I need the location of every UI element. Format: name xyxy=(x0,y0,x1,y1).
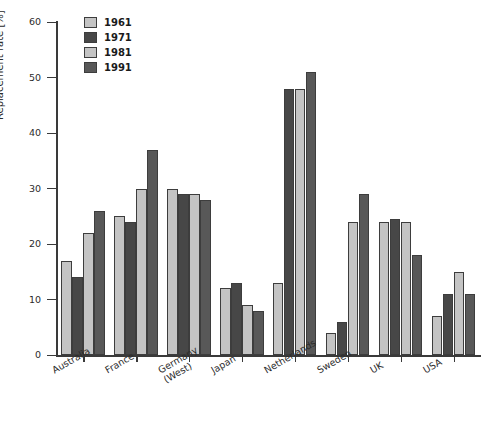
bar xyxy=(200,200,211,355)
bar xyxy=(83,233,94,355)
bar xyxy=(114,216,125,355)
bar xyxy=(61,261,72,355)
y-tick-label-10: 10 xyxy=(1,294,41,305)
bar xyxy=(359,194,370,355)
x-axis-label: Germany (West) xyxy=(156,344,205,385)
legend-item: 1971 xyxy=(84,31,132,45)
bar-group xyxy=(167,22,211,355)
y-tick-20 xyxy=(47,244,56,245)
x-tick xyxy=(401,356,402,362)
y-tick-50 xyxy=(47,77,56,78)
bar-chart: Replacement rate [%] 0102030405060 Austr… xyxy=(0,0,492,423)
x-tick xyxy=(242,356,243,362)
bar xyxy=(242,305,253,355)
bar xyxy=(178,194,189,355)
bar-group xyxy=(326,22,370,355)
bar xyxy=(284,89,295,355)
bar xyxy=(390,219,401,355)
bar xyxy=(273,283,284,355)
bar xyxy=(189,194,200,355)
bar xyxy=(348,222,359,355)
bar xyxy=(401,222,412,355)
legend-item: 1961 xyxy=(84,16,132,30)
x-axis-label: USA xyxy=(421,356,444,375)
y-tick-label-20: 20 xyxy=(1,238,41,249)
bar xyxy=(72,277,83,355)
bar-group xyxy=(379,22,423,355)
y-tick-label-40: 40 xyxy=(1,127,41,138)
y-tick-10 xyxy=(47,299,56,300)
bar xyxy=(454,272,465,355)
bar xyxy=(94,211,105,355)
legend-swatch xyxy=(84,17,97,28)
legend-swatch xyxy=(84,47,97,58)
bar-group xyxy=(432,22,476,355)
x-tick xyxy=(454,356,455,362)
bar xyxy=(432,316,443,355)
bar xyxy=(379,222,390,355)
bar xyxy=(125,222,136,355)
bar xyxy=(220,288,231,355)
legend-swatch xyxy=(84,62,97,73)
y-tick-label-30: 30 xyxy=(1,183,41,194)
legend-label: 1971 xyxy=(104,32,132,43)
bar xyxy=(136,189,147,356)
y-axis-line xyxy=(56,21,58,356)
y-tick-label-0: 0 xyxy=(1,349,41,360)
y-tick-60 xyxy=(47,22,56,23)
x-axis-label: UK xyxy=(368,359,385,375)
y-tick-0 xyxy=(47,355,56,356)
legend-swatch xyxy=(84,32,97,43)
y-tick-40 xyxy=(47,133,56,134)
bar xyxy=(326,333,337,355)
legend-label: 1981 xyxy=(104,47,132,58)
legend-item: 1991 xyxy=(84,61,132,75)
y-tick-label-60: 60 xyxy=(1,16,41,27)
legend: 1961197119811991 xyxy=(84,16,132,76)
y-tick-label-50: 50 xyxy=(1,72,41,83)
bar-group xyxy=(220,22,264,355)
legend-label: 1961 xyxy=(104,17,132,28)
bar-group xyxy=(273,22,317,355)
bar xyxy=(295,89,306,355)
y-tick-30 xyxy=(47,188,56,189)
bar xyxy=(253,311,264,355)
bar xyxy=(412,255,423,355)
bar xyxy=(167,189,178,356)
bar xyxy=(306,72,317,355)
bar xyxy=(443,294,454,355)
bar xyxy=(231,283,242,355)
bar xyxy=(465,294,476,355)
legend-item: 1981 xyxy=(84,46,132,60)
bar xyxy=(147,150,158,355)
legend-label: 1991 xyxy=(104,62,132,73)
